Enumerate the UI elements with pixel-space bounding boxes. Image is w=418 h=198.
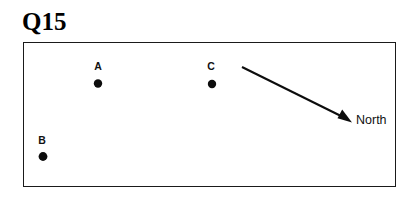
north-arrow-label: North bbox=[356, 113, 387, 128]
map-frame bbox=[23, 42, 396, 187]
worksheet-page: Q15 A C B North bbox=[0, 0, 418, 198]
page-title: Q15 bbox=[22, 8, 66, 36]
